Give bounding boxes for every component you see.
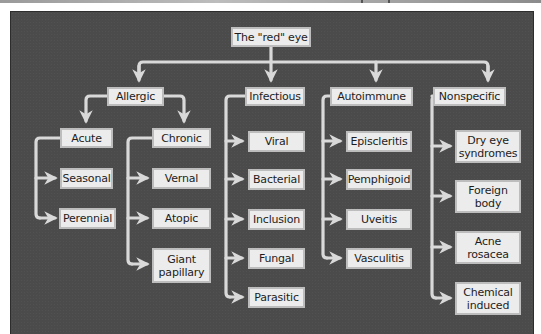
- node-acne-rosacea: Acne rosacea: [455, 231, 521, 264]
- node-parasitic: Parasitic: [248, 287, 305, 308]
- node-label: Fungal: [259, 252, 294, 265]
- node-label: Acute: [71, 132, 101, 145]
- node-bacterial: Bacterial: [248, 169, 305, 190]
- node-vernal: Vernal: [152, 168, 211, 189]
- node-autoimmune: Autoimmune: [330, 87, 413, 106]
- node-giant-papillary: Giant papillary: [152, 248, 211, 283]
- node-label: Chemical induced: [463, 286, 512, 312]
- node-dry-eye-syndromes: Dry eye syndromes: [455, 130, 521, 163]
- node-label: Vasculitis: [354, 252, 403, 265]
- node-atopic: Atopic: [152, 208, 211, 229]
- node-label: Atopic: [165, 212, 198, 225]
- node-label: Autoimmune: [337, 90, 406, 103]
- node-label: Perennial: [63, 212, 112, 225]
- node-label: Parasitic: [254, 291, 299, 304]
- node-nonspecific: Nonspecific: [433, 87, 506, 106]
- node-acute: Acute: [60, 128, 113, 148]
- node-label: Episcleritis: [351, 135, 408, 148]
- node-seasonal: Seasonal: [60, 168, 113, 189]
- node-pemphigoid: Pemphigoid: [346, 169, 412, 190]
- node-foreign-body: Foreign body: [455, 180, 521, 213]
- node-root: The "red" eye: [231, 27, 311, 47]
- node-chronic: Chronic: [152, 128, 211, 148]
- node-label: Seasonal: [62, 172, 110, 185]
- page-top-rule-tick: [388, 0, 390, 3]
- node-chemical-induced: Chemical induced: [455, 282, 521, 315]
- node-infectious: Infectious: [245, 87, 305, 106]
- node-uveitis: Uveitis: [346, 209, 412, 230]
- node-viral: Viral: [248, 131, 305, 152]
- node-label: Uveitis: [361, 213, 397, 226]
- node-label: Vernal: [165, 172, 198, 185]
- page-top-rule-tick: [361, 0, 363, 3]
- node-label: Viral: [265, 135, 289, 148]
- node-inclusion: Inclusion: [248, 209, 305, 230]
- node-label: Inclusion: [253, 213, 300, 226]
- node-label: Acne rosacea: [467, 235, 509, 261]
- page-top-rule: [0, 0, 541, 3]
- node-label: Nonspecific: [439, 90, 500, 103]
- node-label: Bacterial: [253, 173, 300, 186]
- node-label: Allergic: [116, 90, 155, 103]
- node-label: Infectious: [249, 90, 301, 103]
- node-fungal: Fungal: [248, 248, 305, 269]
- node-allergic: Allergic: [107, 87, 164, 106]
- node-episcleritis: Episcleritis: [346, 131, 412, 152]
- node-label: Chronic: [161, 132, 201, 145]
- node-label: Pemphigoid: [348, 173, 411, 186]
- node-perennial: Perennial: [59, 208, 116, 229]
- node-label: Foreign body: [468, 184, 507, 210]
- node-label: The "red" eye: [234, 31, 307, 44]
- node-vasculitis: Vasculitis: [346, 248, 412, 269]
- node-label: Dry eye syndromes: [459, 134, 518, 160]
- node-label: Giant papillary: [159, 253, 205, 279]
